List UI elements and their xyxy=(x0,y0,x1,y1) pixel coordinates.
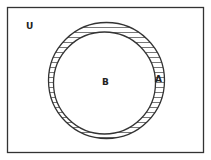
universe-label: U xyxy=(26,21,33,31)
venn-diagram: U B A xyxy=(0,0,211,160)
set-b-label: B xyxy=(102,77,109,87)
set-a-label: A xyxy=(155,74,162,84)
